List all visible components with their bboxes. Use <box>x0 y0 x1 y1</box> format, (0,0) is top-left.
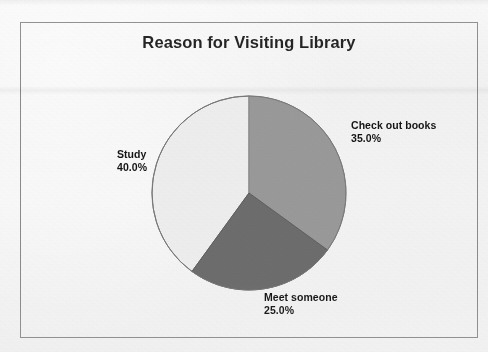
scanned-page: Reason for Visiting Library Check out bo… <box>0 0 488 352</box>
pie-label-meet-someone-name: Meet someone <box>264 291 338 303</box>
chart-frame: Reason for Visiting Library Check out bo… <box>20 22 478 338</box>
pie-label-study-name: Study <box>117 148 146 160</box>
pie-chart-plot-area: Check out books 35.0% Meet someone 25.0%… <box>21 23 479 339</box>
pie-label-check-out-books: Check out books 35.0% <box>351 119 436 146</box>
pie-label-check-out-books-name: Check out books <box>351 119 436 131</box>
pie-label-check-out-books-percent: 35.0% <box>351 132 436 145</box>
pie-label-meet-someone-percent: 25.0% <box>264 304 338 317</box>
pie-label-study: Study 40.0% <box>117 148 147 175</box>
pie-label-meet-someone: Meet someone 25.0% <box>264 291 338 318</box>
pie-chart-svg <box>21 23 479 339</box>
pie-label-study-percent: 40.0% <box>117 161 147 174</box>
scan-artifact-top <box>0 0 488 6</box>
